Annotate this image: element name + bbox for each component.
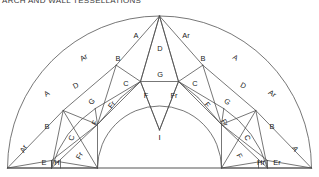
panel-label-g-apex: G xyxy=(157,70,163,79)
panel-label-ar-top-right: Ar xyxy=(182,31,190,40)
panel-label-c-right: C xyxy=(242,134,252,142)
panel-label-hr: Hr xyxy=(257,158,265,167)
panel-label-c-left: C xyxy=(66,133,76,141)
div-r-e xyxy=(179,65,203,81)
panel-label-g-left: G xyxy=(87,96,97,107)
panel-label-b-upper-right: B xyxy=(201,54,206,63)
panel-label-a-top-left: A xyxy=(134,31,139,40)
panel-label-fr-left: Fr xyxy=(106,99,118,110)
panel-label-d-left: D xyxy=(71,80,80,90)
diagram-page: ARCH AND WALL TESSELLATIONS xyxy=(0,0,319,177)
panel-label-b-left: B xyxy=(45,122,50,131)
arch-tessellation-figure: I Ar E H Fr B C F A D G Fr Ar B C A D G … xyxy=(0,8,319,177)
panel-label-a-left: A xyxy=(42,88,51,98)
panel-label-f-left: F xyxy=(89,118,99,127)
panel-label-c-upper-right: C xyxy=(192,79,198,88)
panel-label-f-lower-right: F xyxy=(234,152,244,161)
panel-label-f-center: F xyxy=(144,91,149,100)
panel-label-d-right: D xyxy=(239,80,248,90)
panel-label-fr-lower-left: Fr xyxy=(74,150,85,161)
panel-label-c-upper-left: C xyxy=(123,79,129,88)
panel-label-d-apex: D xyxy=(157,44,162,53)
panel-label-b-right: B xyxy=(270,122,275,131)
outer-arc xyxy=(8,16,312,168)
panel-label-a-right: A xyxy=(231,52,240,62)
inner-region-label: I xyxy=(158,133,160,142)
figure-title: ARCH AND WALL TESSELLATIONS xyxy=(2,0,141,5)
arch-diagram-svg: I Ar E H Fr B C F A D G Fr Ar B C A D G … xyxy=(0,8,319,177)
panel-label-b-upper-left: B xyxy=(116,54,121,63)
panel-label-fr-center: Fr xyxy=(171,91,179,100)
panel-label-g-right: G xyxy=(222,96,232,107)
panel-label-ar-upper-left: Ar xyxy=(78,52,89,64)
outer-rad-l3 xyxy=(116,16,159,65)
panel-label-e: E xyxy=(42,158,47,167)
panel-label-er: Er xyxy=(273,158,281,167)
panel-label-ar-right: Ar xyxy=(267,88,279,100)
panel-label-h: H xyxy=(54,158,59,167)
arch-panel-outlines xyxy=(8,16,312,168)
panel-label-ar-outer-left: Ar xyxy=(18,143,30,154)
outer-rad-r3 xyxy=(160,16,203,65)
